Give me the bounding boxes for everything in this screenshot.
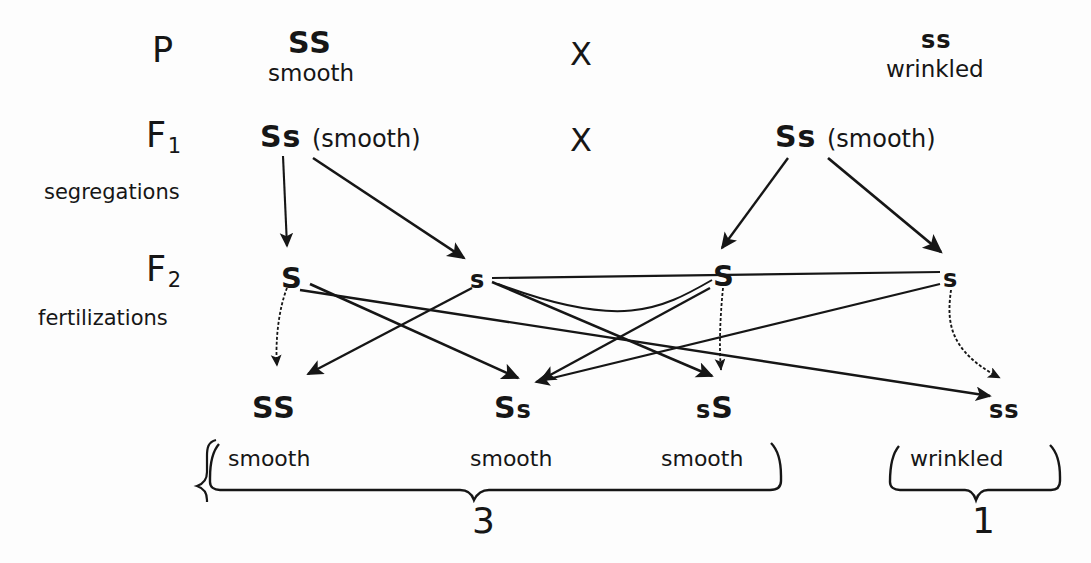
p-cross-symbol: X bbox=[570, 38, 592, 70]
brace-dominant-right-arm bbox=[771, 443, 781, 476]
brace-dominant-left-arm bbox=[210, 444, 219, 478]
offspring-2-allele-2: s bbox=[517, 396, 532, 424]
p-left-phenotype: smooth bbox=[268, 62, 354, 85]
arrow-f1left-to-gamete-s bbox=[313, 158, 464, 258]
f1-cross-symbol: X bbox=[570, 124, 592, 156]
arrow-gameteS3-to-sS bbox=[720, 288, 723, 370]
line-gametes2-curve-to-S3 bbox=[498, 280, 712, 311]
phenotype-label-2: smooth bbox=[470, 448, 552, 470]
gamete-4: s bbox=[943, 267, 957, 291]
ratio-recessive: 1 bbox=[972, 503, 995, 539]
arrow-gameteS3-to-Ss bbox=[541, 288, 710, 380]
p-left-genotype: SS bbox=[288, 28, 332, 58]
gamete-2: s bbox=[470, 268, 484, 292]
arrow-f1right-to-gamete-S bbox=[722, 158, 788, 248]
f1-left-phenotype: (smooth) bbox=[312, 127, 421, 151]
offspring-genotype-4: ss bbox=[989, 398, 1020, 422]
arrow-gameteS1-to-Ss bbox=[310, 284, 518, 378]
offspring-3-allele-2: S bbox=[711, 390, 734, 425]
ratio-dominant: 3 bbox=[472, 503, 495, 539]
generation-label-f1: F1 bbox=[146, 118, 181, 153]
offspring-4-allele-1: s bbox=[989, 396, 1004, 424]
arrow-gameteS1-to-SS bbox=[276, 288, 287, 366]
arrow-f1left-to-gamete-S bbox=[283, 156, 287, 246]
offspring-1-allele-1: S bbox=[252, 390, 273, 425]
offspring-genotype-3: sS bbox=[696, 393, 734, 423]
offspring-2-allele-1: S bbox=[494, 390, 517, 425]
f1-left-genotype: Ss bbox=[260, 122, 301, 152]
phenotype-label-1: smooth bbox=[228, 448, 310, 470]
generation-label-f1-subscript: 1 bbox=[168, 134, 182, 158]
arrow-gametes4-to-ss bbox=[949, 290, 1000, 378]
generation-label-p: P bbox=[152, 33, 174, 68]
arrow-long-left-to-ss bbox=[300, 290, 990, 396]
generation-label-f2: F2 bbox=[146, 252, 181, 287]
p-right-phenotype: wrinkled bbox=[886, 58, 984, 81]
f2-sub-label: fertilizations bbox=[38, 308, 168, 329]
offspring-4-allele-2: s bbox=[1004, 396, 1019, 424]
generation-label-f1-letter: F bbox=[146, 115, 167, 155]
f1-sub-label: segregations bbox=[44, 182, 180, 203]
brace-recessive-left-arm bbox=[890, 446, 899, 482]
offspring-genotype-1: SS bbox=[252, 393, 296, 423]
generation-label-f2-letter: F bbox=[146, 249, 167, 289]
brace-recessive bbox=[890, 477, 1060, 500]
offspring-1-allele-2: S bbox=[273, 390, 296, 425]
arrow-f1right-to-gamete-s bbox=[828, 158, 941, 252]
genetics-cross-diagram: P SS smooth X ss wrinkled F1 segregation… bbox=[0, 0, 1091, 563]
gamete-3: S bbox=[713, 262, 734, 291]
brace-left-tip bbox=[197, 440, 216, 502]
gamete-1: S bbox=[281, 264, 302, 293]
p-right-genotype: ss bbox=[921, 28, 952, 52]
generation-label-f2-subscript: 2 bbox=[168, 268, 182, 292]
arrow-gametes2-to-SS bbox=[308, 288, 472, 374]
offspring-3-allele-1: s bbox=[696, 396, 711, 424]
f1-right-phenotype: (smooth) bbox=[827, 127, 936, 151]
brace-dominant bbox=[210, 476, 781, 500]
brace-recessive-right-arm bbox=[1050, 445, 1060, 477]
arrow-gametes2-to-sS bbox=[492, 282, 712, 376]
phenotype-label-4: wrinkled bbox=[910, 448, 1003, 470]
f1-right-genotype: Ss bbox=[775, 122, 816, 152]
offspring-genotype-2: Ss bbox=[494, 393, 532, 423]
arrow-gametes4-to-Ss bbox=[536, 284, 940, 382]
phenotype-label-3: smooth bbox=[661, 448, 743, 470]
